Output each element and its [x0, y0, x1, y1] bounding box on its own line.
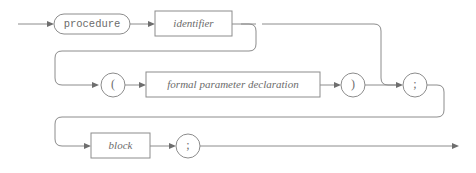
formal-params-arrowhead	[139, 82, 146, 88]
label-block: block	[109, 139, 134, 151]
label-formal-parameter-declaration: formal parameter declaration	[167, 78, 299, 90]
label-semicolon-tail: ;	[186, 138, 189, 152]
identifier-arrowhead	[148, 21, 155, 27]
header-semicolon-arrowhead	[396, 82, 403, 88]
tail-semicolon-arrowhead	[169, 143, 176, 149]
params-branch-arrowhead	[92, 82, 99, 88]
label-close-paren: )	[351, 77, 355, 91]
exit-arrowhead	[452, 143, 459, 149]
rail-top-bypass-down	[374, 24, 396, 85]
railroad-canvas: procedure identifier ( formal parameter …	[0, 0, 476, 173]
close-paren-arrowhead	[334, 82, 341, 88]
entry-arrowhead	[47, 21, 54, 27]
label-procedure-keyword: procedure	[64, 18, 121, 30]
railroad-diagram: procedure identifier ( formal parameter …	[0, 0, 476, 173]
label-semicolon-header: ;	[413, 77, 416, 91]
label-open-paren: (	[111, 77, 115, 91]
label-identifier: identifier	[173, 17, 214, 29]
block-arrowhead	[84, 143, 91, 149]
